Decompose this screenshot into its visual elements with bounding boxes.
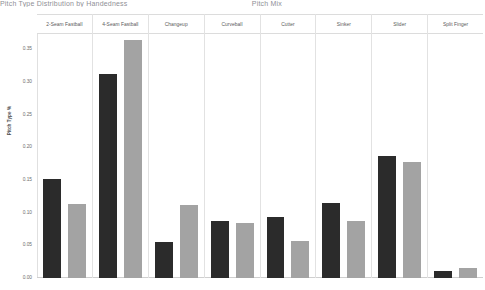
y-axis-tick-label: 0.30 [23,79,32,84]
facet-panel [37,34,92,278]
facet-strip: Curveball [205,14,260,34]
bar-series-dark[interactable] [155,242,173,278]
bar-series-dark[interactable] [99,74,117,278]
facet-sinker: Sinker [315,14,371,278]
facet-strip: 2-Seam Fastball [37,14,92,34]
facet-strip-label: Curveball [222,22,243,27]
bar-series-light[interactable] [68,204,86,278]
pitch-type-bar-chart: Pitch Type Distribution by Handedness Pi… [0,0,485,290]
facet-strip-label: Split Finger [443,22,468,27]
y-axis-tick-label: 0.00 [23,275,32,280]
facet-strip-label: Sinker [337,22,351,27]
y-axis-tick-label: 0.25 [23,111,32,116]
facet-panel [428,34,483,278]
bar-series-dark[interactable] [267,217,285,278]
bar-series-light[interactable] [403,162,421,278]
facet-strip-label: Slider [393,22,406,27]
facet-2-seam-fastball: 2-Seam Fastball [37,14,92,278]
clipped-title-right: Pitch Mix [252,0,282,7]
bar-series-light[interactable] [236,223,254,278]
facet-split-finger: Split Finger [427,14,483,278]
bar-series-light[interactable] [124,40,142,278]
facet-strip: Slider [372,14,427,34]
y-axis-tick-label: 0.20 [23,144,32,149]
facet-strip: Changeup [149,14,204,34]
bar-series-light[interactable] [347,221,365,278]
facet-slider: Slider [371,14,427,278]
facet-panel [149,34,204,278]
facet-strip-label: Cutter [281,22,295,27]
facet-strip-label: Changeup [165,22,188,27]
bar-series-light[interactable] [291,241,309,278]
facet-container: 2-Seam Fastball4-Seam FastballChangeupCu… [37,14,483,278]
y-axis-tick-labels: 0.350.300.250.200.150.100.050.00 [0,0,36,290]
bar-series-dark[interactable] [322,203,340,278]
facet-strip-label: 4-Seam Fastball [102,22,138,27]
facet-panel [372,34,427,278]
clipped-title-strip: Pitch Type Distribution by Handedness Pi… [0,0,485,7]
facet-strip: Split Finger [428,14,483,34]
facet-panel [93,34,148,278]
y-axis-tick-label: 0.15 [23,177,32,182]
facet-4-seam-fastball: 4-Seam Fastball [92,14,148,278]
facet-panel [316,34,371,278]
facet-curveball: Curveball [204,14,260,278]
y-axis-tick-label: 0.35 [23,46,32,51]
facet-strip: Sinker [316,14,371,34]
facet-panel [261,34,316,278]
plot-area: 2-Seam Fastball4-Seam FastballChangeupCu… [37,14,483,278]
facet-changeup: Changeup [148,14,204,278]
bar-series-dark[interactable] [434,271,452,278]
facet-strip: Cutter [261,14,316,34]
bar-series-light[interactable] [180,205,198,278]
facet-panel [205,34,260,278]
facet-cutter: Cutter [260,14,316,278]
bar-series-dark[interactable] [43,179,61,278]
facet-strip-label: 2-Seam Fastball [46,22,82,27]
bar-series-dark[interactable] [378,156,396,278]
y-axis-tick-label: 0.05 [23,242,32,247]
y-axis-tick-label: 0.10 [23,209,32,214]
bar-series-dark[interactable] [211,221,229,278]
facet-strip: 4-Seam Fastball [93,14,148,34]
bar-series-light[interactable] [459,268,477,278]
